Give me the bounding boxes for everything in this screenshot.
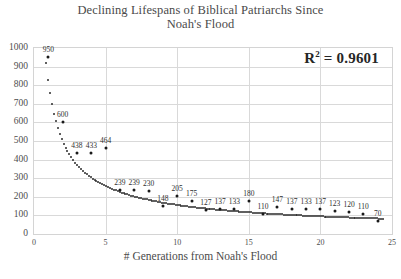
r-squared-value: = 0.9601 (320, 50, 379, 66)
data-point-label: 205 (172, 185, 183, 193)
trendline-dot (51, 103, 53, 105)
trendline-dot (45, 62, 47, 64)
data-point (319, 207, 322, 210)
data-point (190, 200, 193, 203)
data-point (376, 219, 379, 222)
trendline-dot (49, 92, 51, 94)
y-axis-tick-label: 800 (0, 79, 28, 89)
data-point-label: 123 (329, 200, 340, 208)
chart-title-line-1: Declining Lifespans of Biblical Patriarc… (0, 3, 401, 17)
chart-container: Declining Lifespans of Biblical Patriarc… (0, 0, 401, 279)
data-point-label: 70 (374, 210, 382, 218)
trendline-dot (65, 147, 67, 149)
y-axis-tick-label: 400 (0, 154, 28, 164)
gridline-horizontal (34, 197, 392, 198)
data-point (104, 146, 107, 149)
chart-title: Declining Lifespans of Biblical Patriarc… (0, 3, 401, 31)
trendline-dot (59, 133, 61, 135)
y-axis-tick-label: 700 (0, 98, 28, 108)
x-axis-tick-label: 5 (104, 238, 108, 247)
data-point (290, 207, 293, 210)
trendline-dot (68, 153, 70, 155)
y-axis-tick-label: 900 (0, 61, 28, 71)
trendline-dot (70, 156, 72, 158)
data-point-label: 433 (86, 142, 97, 150)
data-point-label: 110 (358, 203, 369, 211)
data-point (204, 209, 207, 212)
x-axis-tick-label: 15 (245, 238, 253, 247)
data-point-label: 148 (157, 195, 168, 203)
data-point (75, 151, 78, 154)
data-point (262, 212, 265, 215)
trendline-dot (57, 127, 59, 129)
data-point-label: 230 (143, 180, 154, 188)
data-point-label: 133 (229, 198, 240, 206)
gridline-horizontal (34, 85, 392, 86)
data-point (333, 210, 336, 213)
y-axis-tick-label: 300 (0, 172, 28, 182)
data-point-label: 239 (129, 179, 140, 187)
x-axis-tick-label: 20 (316, 238, 324, 247)
trendline-dot (382, 218, 384, 220)
gridline-horizontal (34, 104, 392, 105)
data-point-label: 147 (272, 196, 283, 204)
chart-title-line-2: Noah's Flood (0, 17, 401, 31)
gridline-horizontal (34, 160, 392, 161)
data-point (219, 207, 222, 210)
data-point (61, 121, 64, 124)
plot-area: 9506004384334642392392301482051751271371… (33, 47, 393, 235)
data-point (233, 208, 236, 211)
data-point-label: 133 (300, 198, 311, 206)
data-point-label: 464 (100, 137, 111, 145)
r-squared-annotation: R2 = 0.9601 (304, 49, 379, 67)
data-point-label: 110 (258, 203, 269, 211)
y-axis-labels: 01002003004005006007008009001000 (0, 47, 30, 235)
x-axis-title: # Generations from Noah's Flood (0, 250, 401, 262)
data-point (305, 208, 308, 211)
data-point (47, 56, 50, 59)
r-squared-symbol: R (304, 50, 315, 66)
gridline-horizontal (34, 122, 392, 123)
data-point (348, 210, 351, 213)
data-point-label: 127 (200, 199, 211, 207)
trendline-dot (61, 138, 63, 140)
y-axis-tick-label: 500 (0, 135, 28, 145)
data-point (118, 188, 121, 191)
trendline-dot (66, 150, 68, 152)
data-point-label: 137 (286, 198, 297, 206)
data-point (147, 190, 150, 193)
data-point-label: 175 (186, 190, 197, 198)
data-point-label: 137 (315, 198, 326, 206)
x-axis-labels: 0510152025 (33, 238, 393, 250)
data-point (176, 194, 179, 197)
gridline-vertical (249, 48, 250, 234)
x-axis-tick-label: 0 (32, 238, 36, 247)
trendline-dot (53, 113, 55, 115)
data-point-label: 137 (215, 198, 226, 206)
data-point-label: 120 (343, 201, 354, 209)
y-axis-tick-label: 100 (0, 209, 28, 219)
gridline-horizontal (34, 178, 392, 179)
data-point (133, 188, 136, 191)
data-point-label: 239 (114, 179, 125, 187)
data-point-label: 600 (57, 111, 68, 119)
data-point (362, 212, 365, 215)
data-point (276, 205, 279, 208)
data-point-label: 180 (243, 190, 254, 198)
data-point (247, 199, 250, 202)
data-point-label: 950 (43, 46, 54, 54)
trendline-dot (63, 143, 65, 145)
x-axis-tick-label: 25 (388, 238, 396, 247)
data-point-label: 438 (71, 142, 82, 150)
data-point (161, 205, 164, 208)
x-axis-tick-label: 10 (173, 238, 181, 247)
trendline-dot (55, 120, 57, 122)
y-axis-tick-label: 0 (0, 228, 28, 238)
data-point (90, 152, 93, 155)
y-axis-tick-label: 600 (0, 116, 28, 126)
y-axis-tick-label: 200 (0, 191, 28, 201)
trendline-dot (47, 79, 49, 81)
y-axis-tick-label: 1000 (0, 42, 28, 52)
